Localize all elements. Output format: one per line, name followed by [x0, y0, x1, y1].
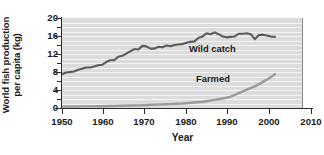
x-tick: [103, 108, 104, 114]
x-tick-label: 2000: [251, 116, 287, 127]
plot-area: Wild catch Farmed: [62, 18, 303, 108]
y-tick-major: [55, 36, 62, 37]
y-tick-minor: [57, 81, 62, 82]
x-tick-label: 1990: [209, 116, 245, 127]
x-tick: [311, 108, 312, 114]
y-tick-minor: [57, 45, 62, 46]
chart-figure: World fish production per capita (kg) 20…: [0, 0, 324, 155]
y-axis-label-line1: World fish production: [0, 12, 11, 118]
x-tick: [269, 108, 270, 114]
x-tick-label: 1970: [126, 116, 162, 127]
wild-catch-annotation: Wild catch: [189, 43, 236, 54]
x-tick: [186, 108, 187, 114]
y-tick-major: [55, 54, 62, 55]
series-canvas: [62, 18, 303, 108]
y-tick-major: [55, 108, 62, 109]
y-tick-label-group: 20 16 12 8 4 0: [34, 0, 58, 155]
x-tick-label: 1960: [85, 116, 121, 127]
x-tick-label: 2010: [293, 116, 324, 127]
farmed-line: [62, 74, 275, 106]
x-tick-label: 1950: [44, 116, 80, 127]
x-tick-label: 1980: [168, 116, 204, 127]
y-tick-minor: [57, 99, 62, 100]
y-tick-minor: [57, 27, 62, 28]
x-axis-label: Year: [62, 132, 303, 143]
x-tick: [227, 108, 228, 114]
y-axis-label-line2: per capita (kg): [11, 12, 22, 118]
y-tick-major: [55, 18, 62, 19]
y-tick-major: [55, 72, 62, 73]
farmed-annotation: Farmed: [196, 73, 230, 84]
x-tick: [144, 108, 145, 114]
y-axis-label: World fish production per capita (kg): [0, 0, 34, 130]
y-tick-minor: [57, 63, 62, 64]
wild-catch-line: [62, 32, 275, 74]
x-tick: [62, 108, 63, 114]
y-tick-major: [55, 90, 62, 91]
